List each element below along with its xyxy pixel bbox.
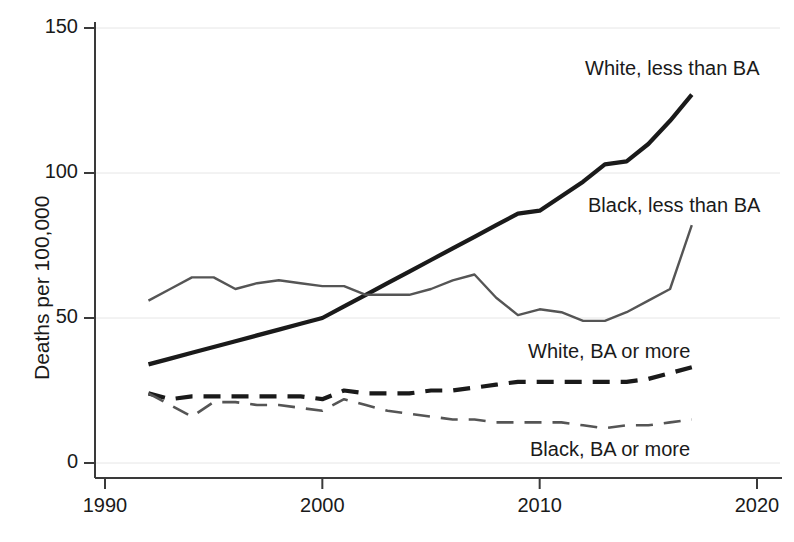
series-line-0	[148, 95, 691, 365]
x-tick-label-2000: 2000	[282, 494, 362, 517]
series-label-1: Black, less than BA	[588, 194, 760, 217]
series-label-0: White, less than BA	[585, 57, 760, 80]
series-line-2	[148, 367, 691, 399]
x-tick-label-2010: 2010	[500, 494, 580, 517]
ticks-group	[84, 28, 757, 489]
series-group	[148, 95, 691, 429]
series-label-2: White, BA or more	[528, 340, 690, 363]
y-tick-label-0: 0	[67, 450, 78, 473]
y-axis-title: Deaths per 100,000	[30, 196, 54, 380]
series-line-1	[148, 225, 691, 321]
y-tick-label-150: 150	[45, 15, 78, 38]
series-label-3: Black, BA or more	[530, 438, 690, 461]
axes-group	[95, 22, 782, 478]
x-tick-label-1990: 1990	[65, 494, 145, 517]
chart-container: Deaths per 100,000 150100500 19902000201…	[0, 0, 794, 542]
y-tick-label-100: 100	[45, 160, 78, 183]
x-tick-label-2020: 2020	[717, 494, 794, 517]
gridlines-group	[95, 28, 780, 463]
y-tick-label-50: 50	[56, 305, 78, 328]
series-line-3	[148, 393, 691, 428]
